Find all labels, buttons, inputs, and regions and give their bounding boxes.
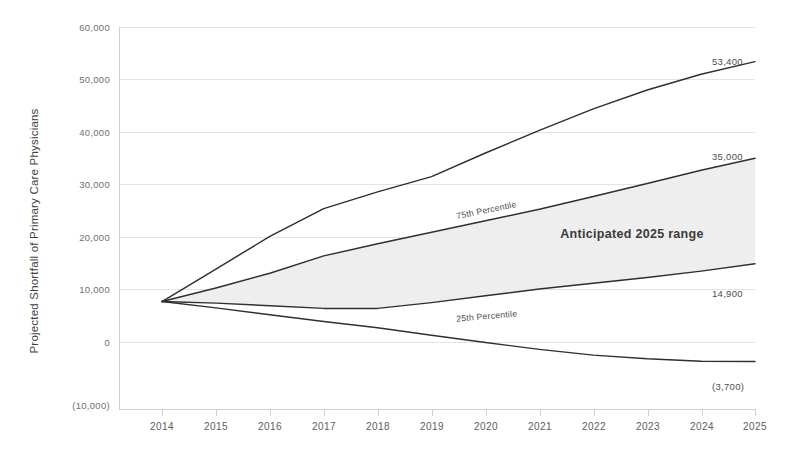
end-label-75th-percentile: 35,000 [712,151,743,162]
xtick-label-2024: 2024 [690,421,714,432]
series-label-25th-percentile: 25th Percentile [456,308,518,323]
xtick-label-2015: 2015 [204,421,228,432]
end-label-25th-percentile: 14,900 [712,288,743,299]
xtick-label-2016: 2016 [258,421,282,432]
end-label-upper-bound: 53,400 [712,56,743,67]
band-annotation-label: Anticipated 2025 range [560,227,703,241]
end-label-lower-bound: (3,700) [712,381,744,392]
ytick-label-50000: 50,000 [79,74,110,85]
ytick-label-0: 0 [104,337,110,348]
ytick-label-20000: 20,000 [79,232,110,243]
xtick-label-2018: 2018 [366,421,390,432]
xtick-label-2019: 2019 [420,421,444,432]
xtick-label-2014: 2014 [150,421,174,432]
ytick-label-30000: 30,000 [79,179,110,190]
xtick-label-2021: 2021 [528,421,552,432]
ytick-label-60000: 60,000 [79,22,110,33]
ytick-label-10000: 10,000 [79,284,110,295]
ytick-label-40000: 40,000 [79,127,110,138]
ytick-label-minus10000: (10,000) [72,400,110,411]
xtick-label-2022: 2022 [582,421,606,432]
series-line-lower-bound [162,302,755,362]
xtick-label-2020: 2020 [474,421,498,432]
x-axis-tick-labels: 2014 2015 2016 2017 2018 2019 2020 2021 … [150,421,767,432]
chart-container: 60,000 50,000 40,000 30,000 20,000 10,00… [0,0,788,463]
xtick-label-2025: 2025 [743,421,767,432]
y-axis-title: Projected Shortfall of Primary Care Phys… [28,108,40,353]
xtick-label-2017: 2017 [312,421,336,432]
line-chart: 60,000 50,000 40,000 30,000 20,000 10,00… [0,0,788,463]
xtick-label-2023: 2023 [636,421,660,432]
y-axis-tick-labels: 60,000 50,000 40,000 30,000 20,000 10,00… [72,22,110,411]
